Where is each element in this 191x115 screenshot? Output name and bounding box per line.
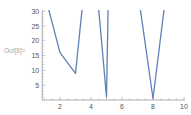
x-tick-label: 4 (89, 103, 93, 110)
axes: 24681051015202530 (31, 8, 188, 110)
x-tick-label: 6 (120, 103, 124, 110)
line-chart: 24681051015202530 (0, 0, 191, 115)
series-line (45, 0, 169, 99)
y-tick-label: 25 (31, 23, 39, 30)
x-tick-label: 8 (151, 103, 155, 110)
y-tick-label: 20 (31, 37, 39, 44)
data-series (45, 0, 169, 99)
x-tick-label: 10 (180, 103, 188, 110)
y-tick-label: 10 (31, 67, 39, 74)
y-tick-label: 5 (35, 82, 39, 89)
x-tick-label: 2 (58, 103, 62, 110)
y-tick-label: 15 (31, 52, 39, 59)
y-tick-label: 30 (31, 8, 39, 15)
